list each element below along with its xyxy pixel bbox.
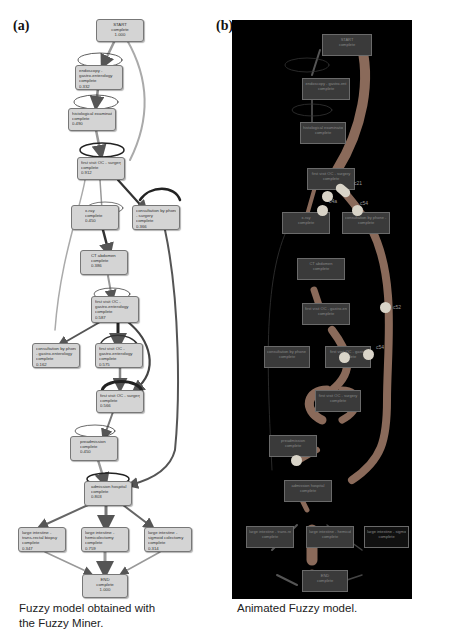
token-label: c54 (360, 200, 368, 206)
token-label: c54 (376, 344, 384, 350)
node-status: complete (310, 176, 352, 181)
node-end[interactable]: END complete 1.000 (82, 574, 128, 598)
node-status: complete (367, 534, 406, 539)
token-label: c21 (354, 180, 362, 186)
anim-node-preadmission[interactable]: preadmissioncomplete (269, 435, 317, 457)
node-endoscopy[interactable]: endoscopy - gastro-enterology complete 0… (75, 65, 123, 90)
node-significance: 0.162 (36, 362, 76, 367)
node-preadmission[interactable]: preadmission complete 0.450 (70, 436, 118, 461)
node-status: complete (305, 86, 347, 91)
node-first-visit-surgery-2[interactable]: first visit OC - surgery complete 0.566 (96, 390, 144, 413)
node-status: complete (305, 578, 345, 583)
token-label: c4a (329, 198, 337, 204)
node-status: complete (285, 220, 327, 225)
node-significance: 0.450 (85, 218, 115, 223)
node-status: complete (300, 266, 342, 271)
node-status: complete (267, 354, 307, 359)
anim-node-admission[interactable]: admission hospitalcomplete (284, 480, 332, 502)
anim-node-consult-gastro[interactable]: consultation by phone - gastrocomplete (264, 346, 310, 368)
node-significance: 0.366 (136, 224, 176, 229)
case-token[interactable] (317, 205, 328, 216)
node-status: complete (287, 488, 329, 493)
node-status: complete (303, 130, 343, 135)
anim-node-endoscopy[interactable]: endoscopy - gastro-entcomplete (302, 78, 350, 100)
node-status: complete (345, 220, 387, 225)
node-histological-examination[interactable]: histological examination complete 0.490 (68, 108, 116, 131)
anim-node-first-visit-surgery-2[interactable]: first visit OC - surgerycomplete (315, 390, 361, 412)
node-sigmoid-colectomy[interactable]: large intestine - sigmoid colectomy comp… (144, 527, 192, 552)
node-first-visit-surgery[interactable]: first visit OC - surgery complete 0.912 (77, 157, 125, 180)
node-significance: 0.347 (22, 546, 62, 551)
case-token[interactable] (339, 352, 350, 363)
anim-node-sigmoid-colectomy[interactable]: large intestine - sigmoid colectomycompl… (364, 526, 409, 548)
case-token[interactable] (352, 205, 363, 216)
node-significance: 0.386 (91, 263, 124, 268)
node-significance: 1.000 (100, 32, 140, 37)
node-status: complete (325, 42, 369, 47)
anim-node-consult-surgery[interactable]: consultation by phone - surgerycomplete (342, 212, 390, 234)
anim-node-start[interactable]: STARTcomplete (322, 34, 372, 56)
node-status: complete (309, 534, 351, 539)
node-significance: 0.803 (91, 494, 128, 499)
node-status: complete (272, 443, 314, 448)
node-status: complete (318, 398, 358, 403)
anim-node-first-visit-surgery[interactable]: first visit OC - surgerycomplete (307, 168, 355, 190)
node-significance: 0.575 (99, 362, 139, 367)
anim-node-hemicolectomy[interactable]: large intestine - hemicolectomycomplete (306, 526, 354, 548)
node-significance: 0.566 (100, 403, 140, 408)
node-first-visit-gastro-2[interactable]: first visit OC - gastro-enterology compl… (95, 343, 143, 368)
panel-b-label: (b) (216, 18, 233, 34)
node-significance: 1.000 (86, 587, 124, 592)
node-significance: 0.587 (95, 315, 135, 320)
anim-node-ct-abdomen[interactable]: CT abdomencomplete (297, 258, 345, 280)
node-consultation-phone-gastro[interactable]: consultation by phone - gastro-enterolog… (32, 343, 80, 368)
node-significance: 0.332 (79, 84, 119, 89)
anim-node-first-visit-gastro[interactable]: first visit OC - gastro-entcomplete (302, 303, 350, 325)
node-status: complete (249, 534, 291, 539)
case-token[interactable] (363, 349, 374, 360)
node-significance: 0.450 (80, 449, 114, 454)
case-token[interactable] (291, 455, 302, 466)
anim-node-trans-rectal[interactable]: large intestine - trans-rectalcomplete (246, 526, 294, 548)
node-first-visit-gastro-1[interactable]: first visit OC - gastro-enterology compl… (91, 296, 139, 323)
animation-canvas[interactable]: STARTcomplete endoscopy - gastro-entcomp… (232, 20, 412, 599)
token-label: c52 (393, 304, 401, 310)
node-hemicolectomy[interactable]: large intestine - hemicolectomy complete… (81, 527, 129, 552)
panel-a-caption: Fuzzy model obtained with the Fuzzy Mine… (19, 601, 155, 631)
panel-b-caption: Animated Fuzzy model. (237, 601, 357, 616)
caption-line: the Fuzzy Miner. (19, 616, 155, 631)
node-significance: 0.759 (85, 546, 125, 551)
node-consultation-phone-surgery[interactable]: consultation by phone - surgery complete… (132, 205, 180, 230)
node-status: complete (305, 311, 347, 316)
node-significance: 0.314 (148, 546, 188, 551)
anim-node-histological[interactable]: histological examinationcomplete (300, 122, 346, 144)
case-token[interactable] (380, 302, 391, 313)
node-significance: 0.490 (72, 121, 112, 126)
caption-line: Fuzzy model obtained with (19, 601, 155, 616)
node-start[interactable]: START complete 1.000 (96, 19, 144, 42)
node-ct-abdomen[interactable]: CT abdomen complete 0.386 (80, 250, 128, 275)
node-trans-rectal-biopsy[interactable]: large intestine - trans-rectal biopsy co… (18, 527, 66, 552)
node-significance: 0.912 (81, 170, 121, 175)
node-x-ray[interactable]: x-ray complete 0.450 (71, 205, 119, 230)
anim-node-end[interactable]: ENDcomplete (302, 570, 348, 592)
node-admission-hospital[interactable]: admission hospital complete 0.803 (84, 481, 132, 506)
